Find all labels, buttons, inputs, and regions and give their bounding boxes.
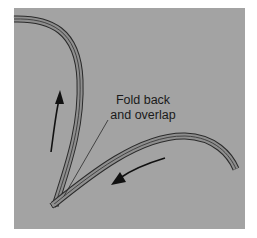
fold-label-line2: and overlap bbox=[98, 108, 188, 123]
upward-motion-arrow bbox=[51, 90, 64, 152]
down-left-motion-arrow bbox=[111, 158, 165, 185]
fold-label-line1: Fold back bbox=[98, 93, 188, 108]
strip-right bbox=[53, 136, 236, 205]
strip-left bbox=[14, 19, 80, 206]
fold-label: Fold back and overlap bbox=[98, 93, 188, 123]
